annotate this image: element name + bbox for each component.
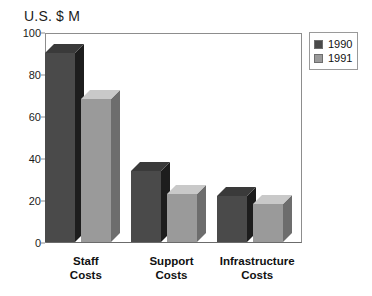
bar-front-face xyxy=(45,53,75,242)
legend-label-1991: 1991 xyxy=(328,53,352,64)
y-tick-mark xyxy=(41,159,45,160)
y-axis-tick-labels: 020406080100 xyxy=(0,0,41,296)
plot-area xyxy=(45,33,302,243)
y-tick-mark xyxy=(41,243,45,244)
bar-front-face xyxy=(167,194,197,242)
y-tick-label: 60 xyxy=(29,111,41,123)
y-tick-mark xyxy=(41,75,45,76)
bar-side-face xyxy=(197,185,206,242)
legend-swatch-1991 xyxy=(314,54,323,63)
legend-label-1990: 1990 xyxy=(328,39,352,50)
y-tick-label: 100 xyxy=(23,27,41,39)
y-tick-label: 40 xyxy=(29,153,41,165)
y-tick-mark xyxy=(41,201,45,202)
bar-1990-2[interactable] xyxy=(217,196,247,242)
bar-1990-0[interactable] xyxy=(45,53,75,242)
bar-front-face xyxy=(253,204,283,242)
bar-1991-1[interactable] xyxy=(167,194,197,242)
y-tick-mark xyxy=(41,33,45,34)
y-tick-label: 80 xyxy=(29,69,41,81)
bar-side-face xyxy=(111,90,120,242)
legend-item-1990[interactable]: 1990 xyxy=(314,37,352,51)
legend-item-1991[interactable]: 1991 xyxy=(314,51,352,65)
y-tick-mark xyxy=(41,117,45,118)
bar-1990-1[interactable] xyxy=(131,171,161,242)
bar-front-face xyxy=(131,171,161,242)
bar-front-face xyxy=(217,196,247,242)
bar-1991-0[interactable] xyxy=(81,99,111,242)
legend-swatch-1990 xyxy=(314,40,323,49)
legend: 1990 1991 xyxy=(309,32,358,70)
bar-1991-2[interactable] xyxy=(253,204,283,242)
bars-layer xyxy=(46,34,301,242)
bar-front-face xyxy=(81,99,111,242)
x-category-label: Infrastructure Costs xyxy=(197,254,317,282)
y-tick-label: 20 xyxy=(29,195,41,207)
bar-chart: U.S. $ M 020406080100 Staff CostsSupport… xyxy=(0,0,372,296)
